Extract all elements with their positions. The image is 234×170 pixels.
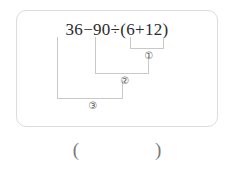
step-marker-1: ①: [141, 50, 157, 62]
step-marker-2: ②: [117, 75, 133, 87]
step-marker-3: ③: [85, 100, 101, 112]
worksheet-problem-item: 36−90÷(6+12) ① ② ③ ( ): [0, 0, 234, 170]
math-expression: 36−90÷(6+12): [0, 21, 234, 38]
answer-blank[interactable]: ( ): [0, 139, 234, 161]
